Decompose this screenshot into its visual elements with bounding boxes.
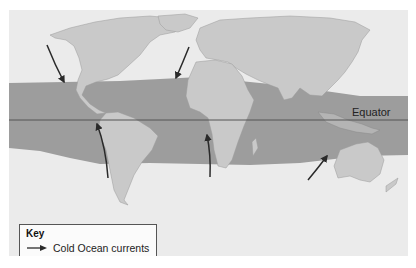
arrow-california-current <box>47 45 64 82</box>
legend-item-cold-currents: Cold Ocean currents <box>26 242 149 254</box>
land-new-zealand <box>386 178 398 192</box>
equator-label: Equator <box>352 106 391 118</box>
legend-label: Cold Ocean currents <box>53 242 149 254</box>
legend-title: Key <box>26 228 44 239</box>
world-map-graphic <box>9 10 408 256</box>
world-map: Equator Key Cold Ocean currents <box>9 10 408 256</box>
map-legend: Key Cold Ocean currents <box>19 224 157 256</box>
arrow-icon <box>26 243 48 253</box>
arrow-canary-current <box>176 47 189 78</box>
